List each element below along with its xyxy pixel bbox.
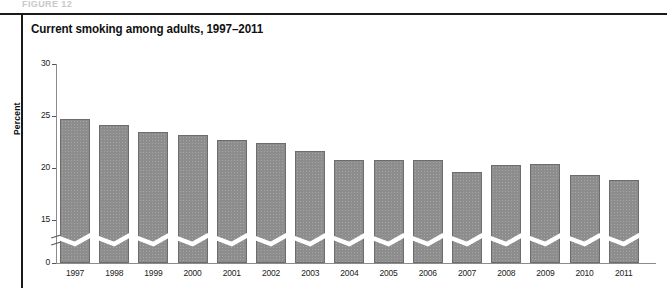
bar xyxy=(452,172,482,263)
y-tick-label: 15 xyxy=(28,214,50,224)
bar xyxy=(413,160,443,263)
y-tick-label: 30 xyxy=(28,58,50,68)
x-tick-label: 2001 xyxy=(216,268,248,278)
y-tick-label: 25 xyxy=(28,110,50,120)
y-tick-label: 0 xyxy=(28,257,50,267)
x-tick-label: 2005 xyxy=(373,268,405,278)
bar xyxy=(60,119,90,263)
x-tick-label: 2003 xyxy=(294,268,326,278)
figure-panel: FIGURE 12 Current smoking among adults, … xyxy=(0,0,667,288)
x-tick-label: 2011 xyxy=(608,268,640,278)
bar xyxy=(374,160,404,263)
bar xyxy=(178,135,208,263)
y-tick-mark xyxy=(52,168,56,169)
x-tick-label: 2010 xyxy=(569,268,601,278)
x-tick-label: 2008 xyxy=(490,268,522,278)
bar xyxy=(609,180,639,263)
y-axis-line xyxy=(56,64,57,263)
x-tick-label: 2002 xyxy=(255,268,287,278)
x-tick-label: 1998 xyxy=(98,268,130,278)
y-axis-label: Percent xyxy=(12,102,22,135)
bar xyxy=(99,125,129,263)
bar xyxy=(138,132,168,263)
bar xyxy=(295,151,325,263)
bar xyxy=(491,165,521,263)
x-tick-label: 2007 xyxy=(451,268,483,278)
x-tick-label: 1997 xyxy=(59,268,91,278)
y-tick-mark xyxy=(52,220,56,221)
x-tick-label: 2006 xyxy=(412,268,444,278)
y-tick-mark xyxy=(52,116,56,117)
bar xyxy=(217,140,247,263)
x-tick-label: 2009 xyxy=(529,268,561,278)
x-axis-line xyxy=(56,263,656,264)
x-tick-label: 2004 xyxy=(333,268,365,278)
bar xyxy=(256,143,286,263)
bar xyxy=(530,164,560,263)
x-tick-label: 1999 xyxy=(137,268,169,278)
y-tick-mark xyxy=(52,64,56,65)
x-tick-label: 2000 xyxy=(177,268,209,278)
y-tick-label: 20 xyxy=(28,162,50,172)
bar xyxy=(334,160,364,263)
bar xyxy=(570,175,600,263)
y-tick-mark xyxy=(52,263,56,264)
bar-chart: Percent 302520150 1997199819992000200120… xyxy=(0,0,667,288)
